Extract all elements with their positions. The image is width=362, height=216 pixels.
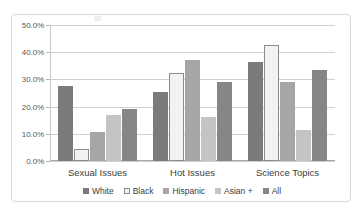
legend-item-white[interactable]: White — [83, 186, 114, 196]
chart-legend: WhiteBlackHispanicAsian +All — [12, 186, 352, 196]
legend-label: All — [272, 186, 281, 196]
image-artifact — [94, 16, 101, 21]
category-label: Sexual Issues — [50, 167, 145, 178]
bar-black — [264, 45, 279, 161]
legend-item-asian[interactable]: Asian + — [215, 186, 253, 196]
bar-white — [153, 92, 168, 161]
bar-hispanic — [280, 82, 295, 161]
legend-swatch-icon — [215, 188, 221, 194]
bar-group — [240, 25, 335, 161]
legend-swatch-icon — [124, 188, 130, 194]
bar-black — [169, 73, 184, 161]
legend-swatch-icon — [163, 188, 169, 194]
bar-group — [50, 25, 145, 161]
legend-item-all[interactable]: All — [263, 186, 281, 196]
category-label: Science Topics — [240, 167, 335, 178]
bar-hispanic — [185, 60, 200, 161]
legend-item-hispanic[interactable]: Hispanic — [163, 186, 205, 196]
y-axis-tick-mark — [46, 161, 50, 162]
y-axis-tick-label: 0.0% — [26, 157, 44, 166]
legend-label: Asian + — [224, 186, 253, 196]
y-axis-tick-label: 20.0% — [22, 102, 44, 111]
bar-white — [248, 62, 263, 161]
bar-asian — [201, 117, 216, 161]
bar-asian — [106, 115, 121, 161]
y-axis-tick-label: 10.0% — [22, 129, 44, 138]
legend-label: Hispanic — [172, 186, 205, 196]
x-axis-category-labels: Sexual IssuesHot IssuesScience Topics — [50, 167, 335, 178]
legend-swatch-icon — [83, 188, 89, 194]
y-axis-tick-label: 40.0% — [22, 48, 44, 57]
gridline — [50, 161, 335, 162]
bar-white — [58, 86, 73, 161]
bar-all — [312, 70, 327, 161]
bar-group — [145, 25, 240, 161]
bar-black — [74, 149, 89, 161]
plot-area — [50, 25, 335, 161]
bar-hispanic — [90, 132, 105, 161]
legend-item-black[interactable]: Black — [124, 186, 154, 196]
bar-asian — [296, 130, 311, 161]
legend-label: White — [92, 186, 114, 196]
y-axis: 0.0%10.0%20.0%30.0%40.0%50.0% — [12, 25, 48, 161]
bar-all — [122, 109, 137, 161]
category-label: Hot Issues — [145, 167, 240, 178]
bar-all — [217, 82, 232, 161]
chart-container: 0.0%10.0%20.0%30.0%40.0%50.0% Sexual Iss… — [11, 14, 351, 202]
y-axis-tick-label: 50.0% — [22, 21, 44, 30]
y-axis-tick-label: 30.0% — [22, 75, 44, 84]
legend-label: Black — [133, 186, 154, 196]
bars-layer — [50, 25, 335, 161]
legend-swatch-icon — [263, 188, 269, 194]
